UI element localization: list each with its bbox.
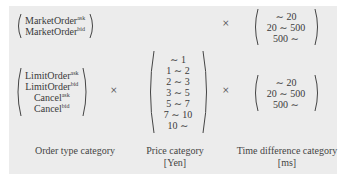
price-category: 5 ∼ 7	[166, 98, 189, 109]
price-category: 7 ∼ 10	[164, 109, 192, 120]
limit-cancel-matrix: LimitOrderask LimitOrderbid Cancelask Ca…	[14, 67, 90, 117]
times-operator: ×	[222, 18, 230, 28]
times-operator: ×	[110, 85, 118, 95]
cancel-ask: Cancelask	[34, 92, 70, 103]
left-paren	[251, 8, 259, 46]
right-paren	[201, 50, 209, 134]
time-category: 20 ∼ 500	[267, 88, 305, 99]
cancel-bid: Cancelbid	[34, 103, 69, 114]
price-label-title: Price category	[140, 145, 210, 157]
time-matrix-row2: ∼ 20 20 ∼ 500 500 ∼	[251, 74, 321, 112]
price-matrix: ∼ 1 1 ∼ 2 2 ∼ 3 3 ∼ 5 5 ∼ 7 7 ∼ 10 10 ∼	[147, 50, 209, 134]
time-label-title: Time difference category	[232, 145, 342, 157]
price-category: 2 ∼ 3	[166, 76, 189, 87]
market-order-matrix: MarketOrderask MarketOrderbid	[14, 13, 96, 39]
price-category: ∼ 1	[170, 54, 186, 65]
limit-order-bid: LimitOrderbid	[25, 81, 78, 92]
left-paren	[14, 67, 22, 117]
right-paren	[88, 13, 96, 39]
price-label: Price category [Yen]	[140, 145, 210, 169]
time-category: ∼ 20	[276, 77, 297, 88]
limit-order-ask: LimitOrderask	[25, 70, 79, 81]
time-label: Time difference category [ms]	[232, 145, 342, 169]
price-category: 1 ∼ 2	[166, 65, 189, 76]
price-category: 3 ∼ 5	[166, 87, 189, 98]
times-operator: ×	[222, 85, 230, 95]
right-paren	[82, 67, 90, 117]
time-matrix-row1: ∼ 20 20 ∼ 500 500 ∼	[251, 8, 321, 46]
market-order-bid: MarketOrderbid	[25, 26, 85, 37]
left-paren	[147, 50, 155, 134]
time-category: ∼ 20	[276, 11, 297, 22]
price-category: 10 ∼	[168, 120, 189, 131]
order-type-label: Order type category	[20, 145, 130, 157]
left-paren	[14, 13, 22, 39]
time-category: 500 ∼	[273, 33, 299, 44]
price-label-unit: [Yen]	[140, 157, 210, 169]
time-category: 20 ∼ 500	[267, 22, 305, 33]
time-label-unit: [ms]	[232, 157, 342, 169]
market-order-ask: MarketOrderask	[25, 15, 85, 26]
right-paren	[313, 74, 321, 112]
right-paren	[313, 8, 321, 46]
left-paren	[251, 74, 259, 112]
time-category: 500 ∼	[273, 99, 299, 110]
